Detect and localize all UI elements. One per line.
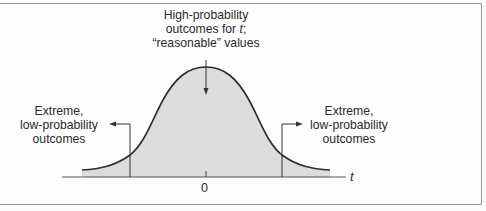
center-annotation: High-probability outcomes for t; “reason… <box>146 8 266 50</box>
axis-label-t: t <box>350 169 354 184</box>
right-tail-line-2: low-probability <box>296 118 402 132</box>
semicolon: ; <box>243 22 246 36</box>
left-tail-annotation: Extreme, low-probability outcomes <box>6 104 112 146</box>
center-annotation-line-3: “reasonable” values <box>146 36 266 50</box>
right-tail-annotation: Extreme, low-probability outcomes <box>296 104 402 146</box>
left-tail-line-1: Extreme, <box>6 104 112 118</box>
left-tail-line-3: outcomes <box>6 132 112 146</box>
left-tail-line-2: low-probability <box>6 118 112 132</box>
right-tail-line-3: outcomes <box>296 132 402 146</box>
center-annotation-text: outcomes for <box>166 22 240 36</box>
center-annotation-line-2: outcomes for t; <box>146 22 266 36</box>
center-annotation-line-1: High-probability <box>146 8 266 22</box>
zero-tick-label: 0 <box>201 181 208 195</box>
right-tail-line-1: Extreme, <box>296 104 402 118</box>
